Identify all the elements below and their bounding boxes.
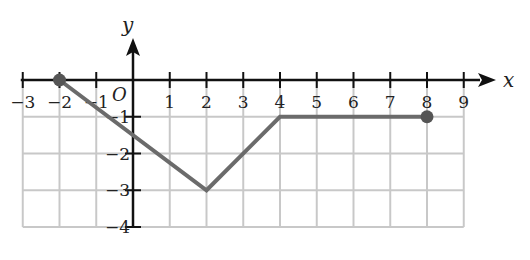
- coordinate-plane: −3−2−1123456789−1−2−3−4 x y O: [0, 0, 530, 260]
- x-axis-label: x: [503, 68, 514, 92]
- tick-labels: −3−2−1123456789−1−2−3−4: [10, 92, 469, 237]
- x-tick-label: 3: [238, 92, 249, 112]
- x-tick-label: 2: [201, 92, 212, 112]
- origin-label: O: [112, 84, 127, 105]
- x-tick-label: 7: [385, 92, 396, 112]
- x-tick-label: 4: [275, 92, 286, 112]
- x-axis-arrow-icon: [478, 73, 496, 87]
- x-tick-label: 5: [311, 92, 322, 112]
- closed-endpoint: [53, 74, 66, 87]
- y-tick-label: −2: [105, 144, 130, 164]
- x-tick-label: −3: [10, 92, 35, 112]
- axes: [21, 38, 496, 227]
- closed-endpoint: [421, 110, 434, 123]
- y-tick-label: −3: [105, 180, 130, 200]
- x-tick-label: 9: [458, 92, 469, 112]
- x-tick-label: 8: [422, 92, 433, 112]
- y-tick-label: −4: [105, 217, 130, 237]
- x-tick-label: 1: [164, 92, 175, 112]
- x-tick-label: 6: [348, 92, 359, 112]
- x-tick-label: −2: [47, 92, 72, 112]
- y-axis-label: y: [121, 13, 134, 37]
